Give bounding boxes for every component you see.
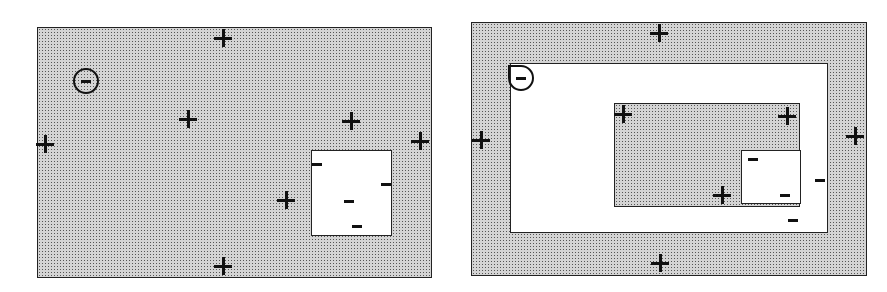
- minus-icon: [352, 225, 362, 228]
- plus-icon: [614, 105, 632, 123]
- minus-icon: [312, 163, 322, 166]
- minus-icon: [748, 158, 758, 161]
- plus-icon: [650, 24, 668, 42]
- minus-icon: [516, 77, 526, 80]
- circled-minus-icon: [508, 65, 534, 91]
- plus-icon: [411, 132, 429, 150]
- plus-icon: [472, 131, 490, 149]
- minus-icon: [81, 80, 91, 83]
- plus-icon: [214, 257, 232, 275]
- plus-icon: [277, 191, 295, 209]
- plus-icon: [36, 135, 54, 153]
- minus-icon: [344, 200, 354, 203]
- plus-icon: [651, 254, 669, 272]
- plus-icon: [214, 29, 232, 47]
- plus-icon: [713, 186, 731, 204]
- plus-icon: [778, 107, 796, 125]
- left-panel-white-box: [311, 150, 392, 236]
- minus-icon: [381, 183, 391, 186]
- plus-icon: [179, 110, 197, 128]
- circled-minus-icon: [73, 68, 99, 94]
- plus-icon: [846, 127, 864, 145]
- plus-icon: [342, 112, 360, 130]
- minus-icon: [780, 194, 790, 197]
- minus-icon: [815, 179, 825, 182]
- minus-icon: [788, 219, 798, 222]
